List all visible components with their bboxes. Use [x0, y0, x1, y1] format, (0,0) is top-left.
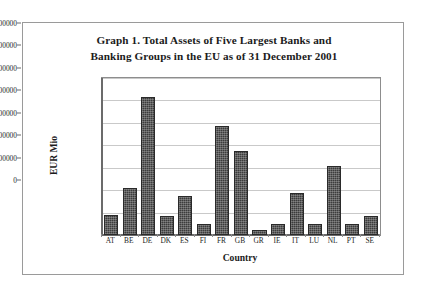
y-axis-tick-mark	[17, 67, 21, 68]
x-axis-tick-label-fr: FR	[212, 236, 231, 245]
x-axis-tick-label-gr: GR	[249, 236, 268, 245]
bar-se	[364, 216, 378, 235]
plot-area	[101, 77, 381, 236]
bar-slot	[121, 78, 140, 235]
bar-slot	[158, 78, 177, 235]
y-axis-tick-mark	[17, 180, 21, 181]
y-axis-tick-mark	[17, 135, 21, 136]
bar-slot	[361, 78, 380, 235]
bar-slot	[102, 78, 121, 235]
x-axis-tick-label-at: AT	[101, 236, 120, 245]
bar-slot	[176, 78, 195, 235]
bar-dk	[160, 216, 174, 235]
y-axis-tick-mark	[17, 90, 21, 91]
y-axis-tick-label: 3000000	[0, 41, 17, 50]
y-axis-tick-mark	[17, 23, 21, 24]
bar-slot	[195, 78, 214, 235]
chart-title: Graph 1. Total Assets of Five Largest Ba…	[23, 32, 405, 64]
x-axis-tick-label-de: DE	[138, 236, 157, 245]
x-axis-tick-label-se: SE	[360, 236, 379, 245]
bar-series	[102, 78, 380, 235]
bar-slot	[343, 78, 362, 235]
bar-at	[104, 215, 118, 235]
y-axis-tick-mark	[17, 45, 21, 46]
bar-slot	[232, 78, 251, 235]
bar-slot	[287, 78, 306, 235]
bar-slot	[269, 78, 288, 235]
bar-de	[141, 97, 155, 235]
chart-title-line-2: Banking Groups in the EU as of 31 Decemb…	[23, 48, 405, 64]
bar-nl	[327, 166, 341, 235]
y-axis-tick-label: 2000000	[0, 86, 17, 95]
bar-slot	[306, 78, 325, 235]
y-axis-tick-label: 2500000	[0, 63, 17, 72]
y-axis-tick-label: 1500000	[0, 108, 17, 117]
x-axis-tick-label-pt: PT	[342, 236, 361, 245]
chart-frame: Graph 1. Total Assets of Five Largest Ba…	[22, 22, 404, 275]
bar-slot	[139, 78, 158, 235]
bar-it	[290, 193, 304, 235]
bar-slot	[250, 78, 269, 235]
chart-title-line-1: Graph 1. Total Assets of Five Largest Ba…	[23, 32, 405, 48]
chart-page: Graph 1. Total Assets of Five Largest Ba…	[0, 0, 423, 293]
x-axis-tick-label-fi: FI	[194, 236, 213, 245]
bar-fr	[215, 126, 229, 235]
x-axis-title: Country	[101, 252, 379, 263]
x-axis-tick-label-lu: LU	[305, 236, 324, 245]
x-axis-tick-label-dk: DK	[157, 236, 176, 245]
bar-gb	[234, 151, 248, 235]
bar-be	[123, 188, 137, 235]
x-axis-tick-label-gb: GB	[231, 236, 250, 245]
x-axis-tick-label-es: ES	[175, 236, 194, 245]
x-axis-tick-label-ie: IE	[268, 236, 287, 245]
bar-slot	[324, 78, 343, 235]
x-axis-tick-label-it: IT	[286, 236, 305, 245]
bar-slot	[213, 78, 232, 235]
y-axis-tick-label: 1000000	[0, 131, 17, 140]
y-axis-tick-mark	[17, 157, 21, 158]
y-axis-title: EUR Mio	[47, 77, 61, 234]
y-axis-tick-label: 500000	[0, 153, 17, 162]
x-axis-tick-label-be: BE	[120, 236, 139, 245]
y-axis-tick-mark	[17, 112, 21, 113]
x-axis-tick-labels: ATBEDEDKESFIFRGBGRIEITLUNLPTSE	[101, 236, 379, 245]
y-axis-title-label: EUR Mio	[49, 136, 60, 175]
y-axis-tick-label: 3500000	[0, 19, 17, 28]
bar-es	[178, 196, 192, 235]
x-axis-tick-label-nl: NL	[323, 236, 342, 245]
